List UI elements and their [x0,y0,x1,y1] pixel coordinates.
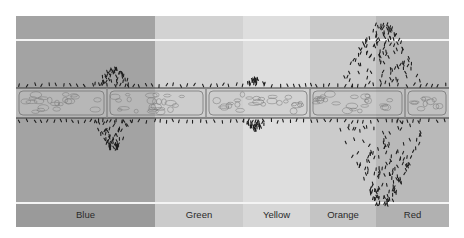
engelmann-experiment-figure: BlueGreenYellowOrangeRed [16,16,449,227]
algal-filament [16,88,449,118]
filament-and-bacteria [16,16,449,227]
